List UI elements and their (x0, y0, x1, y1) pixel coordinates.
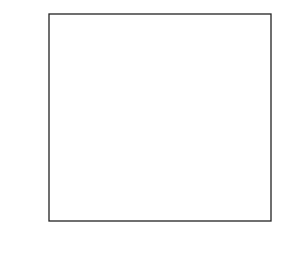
chart (0, 0, 282, 266)
plot-frame (49, 14, 271, 221)
